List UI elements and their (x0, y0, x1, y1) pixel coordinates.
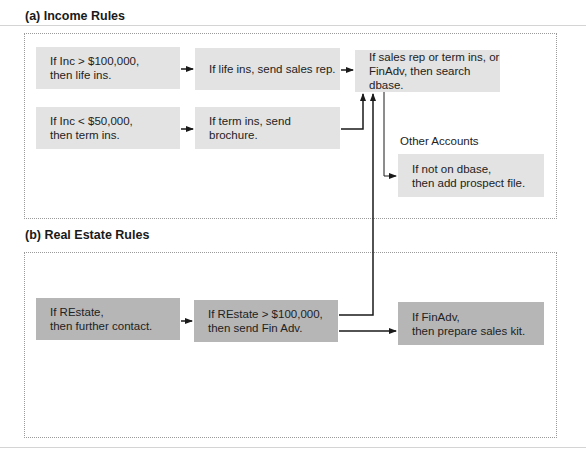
arrow-search-to-add-prospect (384, 92, 396, 176)
connector-lines (0, 0, 586, 457)
arrow-term-ins-to-search (341, 94, 363, 129)
arrow-restate-high-to-search (339, 94, 373, 315)
